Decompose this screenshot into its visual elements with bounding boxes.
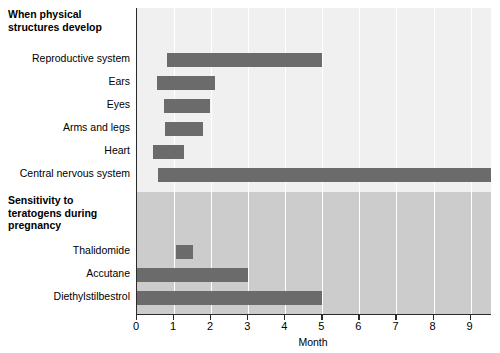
category-label-central-nervous-system: Central nervous system (0, 167, 130, 179)
bar-accutane (137, 268, 248, 282)
gridline-month-9 (471, 8, 472, 314)
section-heading-physical-structures: When physical structures develop (8, 8, 132, 33)
tick-label-5: 5 (311, 320, 331, 333)
tick-label-7: 7 (385, 320, 405, 333)
category-label-eyes: Eyes (0, 98, 130, 110)
category-label-diethylstilbestrol: Diethylstilbestrol (0, 290, 130, 302)
tick-label-6: 6 (348, 320, 368, 333)
tick-label-3: 3 (237, 320, 257, 333)
bar-diethylstilbestrol (137, 291, 322, 305)
tick-label-2: 2 (200, 320, 220, 333)
category-label-accutane: Accutane (0, 267, 130, 279)
category-label-ears: Ears (0, 75, 130, 87)
bar-reproductive-system (167, 53, 323, 67)
bar-arms-and-legs (165, 122, 203, 136)
tick-label-0: 0 (126, 320, 146, 333)
gridline-month-7 (396, 8, 397, 314)
teratogen-timeline-chart: When physical structures develop Sensiti… (0, 0, 500, 353)
gridline-month-5 (322, 8, 323, 314)
gridline-month-8 (434, 8, 435, 314)
bar-ears (157, 76, 214, 90)
plot-area (136, 8, 491, 315)
bar-heart (153, 145, 185, 159)
category-label-thalidomide: Thalidomide (0, 244, 130, 256)
section-heading-teratogen-sensitivity: Sensitivity to teratogens during pregnan… (8, 194, 132, 232)
gridline-month-6 (359, 8, 360, 314)
bar-central-nervous-system (158, 168, 491, 182)
category-label-arms-and-legs: Arms and legs (0, 121, 130, 133)
tick-label-9: 9 (460, 320, 480, 333)
bar-eyes (164, 99, 210, 113)
category-label-reproductive-system: Reproductive system (0, 52, 130, 64)
tick-label-8: 8 (423, 320, 443, 333)
tick-label-4: 4 (274, 320, 294, 333)
x-axis-title: Month (136, 336, 490, 348)
tick-label-1: 1 (163, 320, 183, 333)
category-label-heart: Heart (0, 144, 130, 156)
bar-thalidomide (176, 245, 193, 259)
